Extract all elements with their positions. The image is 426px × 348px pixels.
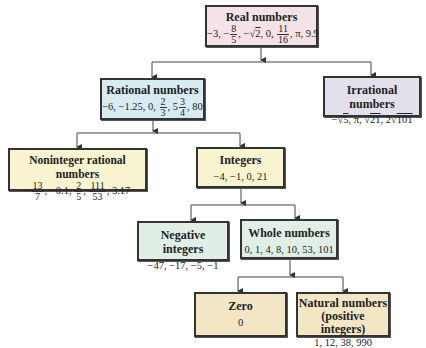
node-title: Irrational numbers	[325, 83, 419, 111]
node-title: Noninteger rational numbers	[10, 153, 145, 181]
node-title: Rational numbers	[102, 83, 203, 97]
node-values: 0	[196, 316, 285, 329]
node-values: −137, −0.1, 25, 11153, 3.17	[10, 181, 145, 202]
node-irrational-numbers: Irrational numbers −√5, π, √21, 2√101	[323, 76, 421, 117]
node-negative-integers: Negative integers −47, −17, −5, −1	[137, 221, 229, 261]
node-title: Whole numbers	[242, 226, 336, 240]
node-title: Zero	[196, 299, 285, 313]
node-subtitle: (positive integers)	[298, 310, 388, 336]
node-title: Negative integers	[139, 228, 227, 256]
node-title: Integers	[198, 153, 283, 167]
node-values: 1, 12, 38, 990	[298, 336, 388, 348]
node-values: −4, −1, 0, 21	[198, 170, 283, 183]
node-title: Real numbers	[207, 10, 316, 24]
node-values: −6, −1.25, 0, 23, 534, 80	[102, 97, 203, 118]
node-values: −3, −85, −√2, 0, 1116, π, 9.9	[207, 24, 316, 45]
node-values: 0, 1, 4, 8, 10, 53, 101	[242, 243, 336, 256]
node-values: −√5, π, √21, 2√101	[325, 113, 419, 126]
node-integers: Integers −4, −1, 0, 21	[196, 147, 285, 188]
node-noninteger-rational-numbers: Noninteger rational numbers −137, −0.1, …	[8, 148, 147, 191]
node-natural-numbers: Natural numbers (positive integers) 1, 1…	[296, 292, 390, 337]
node-whole-numbers: Whole numbers 0, 1, 4, 8, 10, 53, 101	[240, 219, 338, 259]
node-values: −47, −17, −5, −1	[139, 259, 227, 272]
node-real-numbers: Real numbers −3, −85, −√2, 0, 1116, π, 9…	[205, 5, 318, 47]
node-rational-numbers: Rational numbers −6, −1.25, 0, 23, 534, …	[100, 78, 205, 120]
node-zero: Zero 0	[194, 292, 287, 337]
